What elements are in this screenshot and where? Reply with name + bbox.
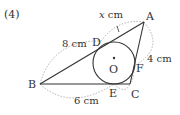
x-pointer-mark bbox=[117, 26, 119, 32]
label-o: O bbox=[109, 63, 118, 76]
side-ab bbox=[40, 22, 144, 84]
label-d: D bbox=[92, 36, 101, 49]
label-f: F bbox=[136, 62, 144, 75]
center-dot-o bbox=[113, 57, 115, 59]
triangle-abc bbox=[40, 22, 144, 84]
label-a: A bbox=[145, 10, 155, 23]
measure-ad-unit: cm bbox=[105, 9, 124, 20]
measure-be: 6 cm bbox=[74, 95, 99, 106]
measure-ad: x cm bbox=[99, 9, 123, 20]
measure-af: 4 cm bbox=[147, 53, 172, 64]
measure-bd: 8 cm bbox=[62, 38, 87, 49]
geometry-figure: (4) A B C D bbox=[0, 0, 180, 115]
problem-number: (4) bbox=[4, 8, 20, 21]
label-e: E bbox=[109, 87, 117, 100]
arc-da bbox=[101, 21, 144, 41]
label-c: C bbox=[131, 88, 139, 101]
label-b: B bbox=[28, 78, 36, 91]
